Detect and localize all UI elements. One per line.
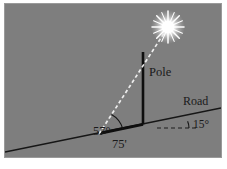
length-label-75: 75' (112, 137, 127, 151)
angle-label-15: 15° (193, 118, 210, 130)
pole-road-diagram: Pole Road 57° 75' 15° (0, 0, 227, 169)
sun-core (162, 21, 174, 33)
illustration-panel (5, 4, 221, 157)
angle-label-57: 57° (93, 124, 111, 138)
figure-root: Pole Road 57° 75' 15° (0, 0, 227, 169)
road-label: Road (183, 94, 208, 108)
pole-label: Pole (149, 65, 172, 79)
